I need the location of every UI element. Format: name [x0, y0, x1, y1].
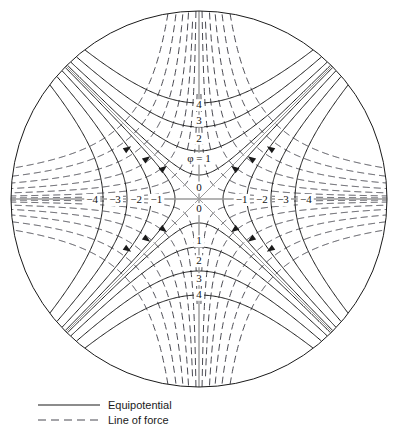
field-plot-area — [11, 11, 387, 387]
label-top-2: 2 — [196, 132, 202, 144]
line-of-force-q2-0.35 — [11, 94, 197, 198]
label-right-minus-2: −2 — [256, 193, 268, 205]
label-left-minus-1: −1 — [150, 193, 162, 205]
legend-label-line-of-force: Line of force — [108, 414, 169, 426]
label-phi-equals-1: φ = 1 — [187, 152, 211, 164]
line-of-force-q3-0.35 — [11, 200, 197, 304]
label-top-4: 4 — [196, 98, 202, 110]
force-arrow-9 — [159, 225, 167, 232]
label-bottom-1: 1 — [196, 234, 202, 246]
label-right-minus-4: −4 — [300, 193, 312, 205]
force-arrow-12 — [231, 225, 239, 232]
label-bottom-4: 4 — [196, 288, 202, 300]
label-top-3: 3 — [196, 114, 202, 126]
force-arrow-3 — [159, 166, 167, 173]
legend-label-equipotential: Equipotential — [108, 399, 172, 411]
saddle-field-figure: 432φ = 1001234−4−3−2−1−1−2−3−4 Equipoten… — [0, 0, 397, 441]
axes-group — [11, 11, 387, 387]
label-center-lower-zero: 0 — [196, 202, 202, 214]
line-of-force-q1-0.35 — [201, 94, 387, 198]
label-bottom-3: 3 — [196, 272, 202, 284]
label-left-minus-3: −3 — [109, 193, 121, 205]
force-arrow-6 — [231, 166, 239, 173]
label-bottom-2: 2 — [196, 254, 202, 266]
label-center-upper-zero: 0 — [196, 181, 202, 193]
label-left-minus-2: −2 — [130, 193, 142, 205]
label-left-minus-4: −4 — [86, 193, 98, 205]
label-right-minus-1: −1 — [236, 193, 248, 205]
legend: Equipotential Line of force — [38, 399, 172, 426]
line-of-force-q4-0.35 — [201, 200, 387, 304]
label-right-minus-3: −3 — [277, 193, 289, 205]
